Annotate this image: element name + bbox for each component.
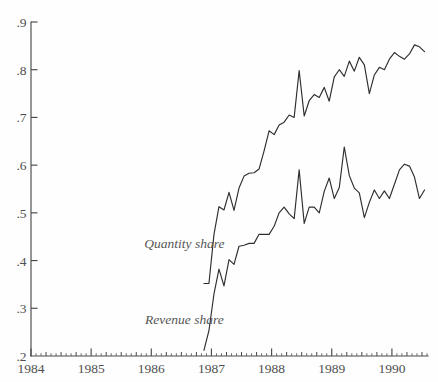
y-axis-tick-label: .4 [16, 254, 26, 269]
x-axis-tick-label: 1989 [318, 361, 345, 376]
y-axis-tick-label: .5 [16, 206, 26, 221]
x-axis-tick-label: 1984 [18, 361, 45, 376]
annotation-quantity-share: Quantity share [144, 236, 224, 251]
series-lines [204, 45, 425, 350]
x-axis-tick-label: 1985 [78, 361, 105, 376]
x-axis-tick-label: 1987 [198, 361, 225, 376]
x-axis-tick-label: 1988 [258, 361, 285, 376]
y-axis-tick-label: .8 [16, 63, 26, 78]
chart-container: .2.3.4.5.6.7.8.9 19841985198619871988198… [0, 0, 438, 382]
y-axis-tick-label: .3 [16, 301, 26, 316]
y-axis-tick-label: .6 [16, 158, 26, 173]
series-line-revenue-share [204, 147, 425, 350]
line-chart: .2.3.4.5.6.7.8.9 19841985198619871988198… [0, 0, 438, 382]
annotation-revenue-share: Revenue share [144, 312, 224, 327]
y-axis: .2.3.4.5.6.7.8.9 [16, 15, 37, 364]
x-axis-tick-label: 1986 [138, 361, 165, 376]
y-axis-tick-label: .9 [16, 15, 26, 30]
y-axis-tick-label: .7 [16, 110, 26, 125]
series-line-quantity-share [204, 45, 425, 284]
x-axis-tick-label: 1990 [378, 361, 405, 376]
series-annotations: Quantity shareRevenue share [144, 236, 224, 327]
x-axis: 1984198519861987198819891990 [18, 349, 429, 377]
